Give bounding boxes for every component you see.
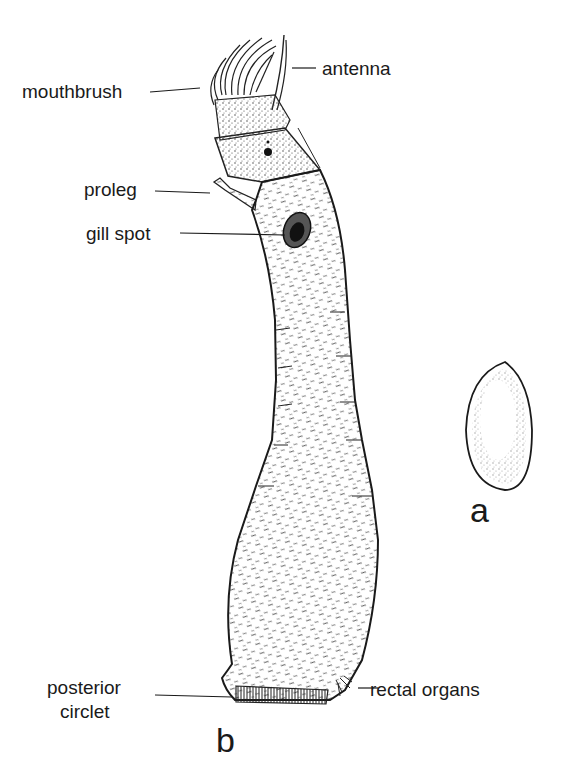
label-antenna: antenna (322, 58, 391, 79)
label-gill-spot: gill spot (86, 223, 150, 244)
panel-label-a: a (470, 492, 489, 528)
label-circlet: circlet (60, 701, 110, 722)
panel-label-b: b (216, 722, 235, 758)
larva-body (211, 35, 378, 704)
egg-drawing (466, 362, 532, 490)
label-mouthbrush: mouthbrush (22, 81, 122, 102)
label-posterior: posterior (47, 677, 121, 698)
label-rectal-organs: rectal organs (370, 679, 480, 700)
diagram-canvas: mouthbrush antenna proleg gill spot post… (0, 0, 568, 772)
mouthbrush-drawing (211, 38, 276, 105)
larva-illustration (0, 0, 568, 772)
body-outline (222, 170, 378, 700)
proleg-drawing (214, 178, 256, 210)
label-proleg: proleg (84, 179, 137, 200)
